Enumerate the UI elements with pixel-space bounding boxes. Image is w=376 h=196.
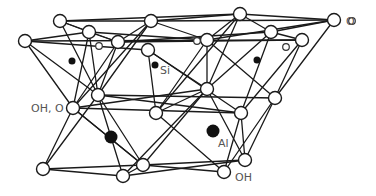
bond-line [245, 98, 275, 160]
bond-line [240, 14, 334, 20]
oxygen-atom [234, 8, 247, 21]
bond-line [25, 41, 98, 95]
oxygen-atom [137, 159, 150, 172]
bond-line [275, 20, 334, 98]
bond-line [271, 20, 334, 32]
oxygen-atom [235, 107, 248, 120]
bond-line [89, 32, 207, 40]
oxygen-atom [218, 166, 231, 179]
bond-line [143, 89, 207, 165]
oxygen-atom [142, 44, 155, 57]
bond-lines [25, 14, 334, 176]
oxygen-atom [83, 26, 96, 39]
oxygen-atom [67, 102, 80, 115]
aluminum-atom [105, 131, 118, 144]
oxygen-atom [265, 26, 278, 39]
oxygen-atom [201, 83, 214, 96]
bond-line [148, 50, 156, 113]
silicon-atom [254, 57, 261, 64]
bond-line [98, 95, 275, 98]
bond-line [207, 14, 240, 89]
bond-line [98, 95, 143, 165]
oxygen-atom [296, 34, 309, 47]
bond-line [25, 41, 73, 108]
oxygen-atom [117, 170, 130, 183]
label-aluminum: Al [218, 138, 229, 149]
label-oxygen: O [346, 16, 355, 27]
bond-line [43, 108, 73, 169]
bond-line [43, 165, 143, 169]
oxygen-atom [150, 107, 163, 120]
aluminum-atoms [105, 125, 220, 144]
oxygen-atom [19, 35, 32, 48]
bond-line [98, 21, 151, 95]
small-oxygen-atom [283, 44, 290, 51]
oxygen-atom [201, 34, 214, 47]
oxygen-atom [145, 15, 158, 28]
oxygen-atom [54, 15, 67, 28]
small-oxygen-atom [194, 38, 201, 45]
oxygen-atom [112, 36, 125, 49]
small-oxygen-atom [96, 43, 103, 50]
label-hydroxyl: OH [235, 172, 252, 183]
aluminum-atom [207, 125, 220, 138]
bond-line [25, 32, 89, 41]
label-silicon: Si [160, 65, 170, 76]
label-hydroxyl-oxygen: OH, O [31, 103, 64, 114]
clay-mineral-structure-diagram [0, 0, 376, 196]
oxygen-atom [328, 14, 341, 27]
oxygen-atom [239, 154, 252, 167]
oxygen-atom [37, 163, 50, 176]
silicon-atom [152, 62, 159, 69]
silicon-atom [69, 58, 76, 65]
oxygen-atom [269, 92, 282, 105]
bond-line [43, 169, 123, 176]
oxygen-atom [92, 89, 105, 102]
